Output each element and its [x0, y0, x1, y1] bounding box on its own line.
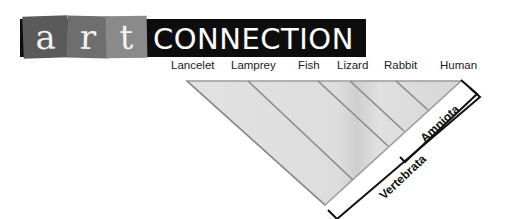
cladogram: Amniota Vertebrata — [0, 0, 509, 219]
cladogram-triangle — [187, 81, 461, 205]
